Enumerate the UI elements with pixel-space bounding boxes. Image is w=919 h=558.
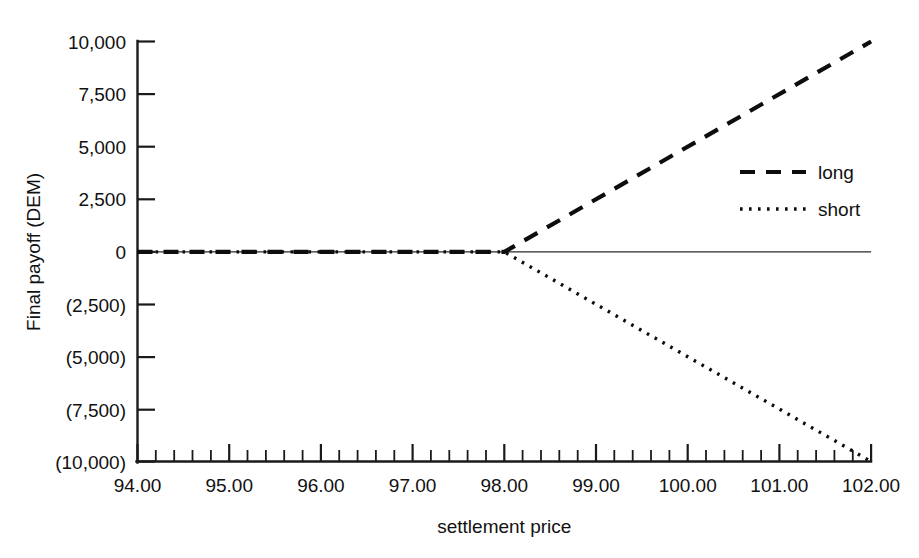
- y-tick-label: (2,500): [66, 295, 126, 316]
- y-tick-label: 0: [115, 242, 126, 263]
- chart-legend: long short: [740, 162, 861, 220]
- chart-canvas: 10,000 7,500 5,000 2,500 0 (2,500) (5,00…: [0, 0, 919, 558]
- x-tick-label: 94.00: [114, 475, 162, 496]
- legend-label-long: long: [818, 162, 854, 183]
- x-axis-tick-labels: 94.00 95.00 96.00 97.00 98.00 99.00 100.…: [114, 475, 900, 496]
- series-long-line: [138, 42, 872, 252]
- y-tick-label: (7,500): [66, 400, 126, 421]
- x-tick-label: 98.00: [481, 475, 529, 496]
- payoff-chart: 10,000 7,500 5,000 2,500 0 (2,500) (5,00…: [0, 0, 919, 558]
- y-tick-label: (10,000): [55, 452, 126, 473]
- x-tick-label: 100.00: [659, 475, 717, 496]
- x-axis-title: settlement price: [437, 516, 571, 537]
- x-tick-label: 97.00: [389, 475, 437, 496]
- x-tick-label: 95.00: [205, 475, 253, 496]
- legend-label-short: short: [818, 199, 861, 220]
- x-tick-label: 96.00: [297, 475, 345, 496]
- y-tick-label: 7,500: [78, 84, 126, 105]
- y-tick-label: 10,000: [68, 32, 126, 53]
- x-tick-label: 99.00: [572, 475, 620, 496]
- y-tick-label: (5,000): [66, 347, 126, 368]
- y-tick-label: 5,000: [78, 137, 126, 158]
- x-tick-label: 101.00: [750, 475, 808, 496]
- x-tick-label: 102.00: [842, 475, 900, 496]
- series-short-line: [138, 252, 872, 462]
- y-axis-tick-labels: 10,000 7,500 5,000 2,500 0 (2,500) (5,00…: [55, 32, 126, 473]
- y-tick-label: 2,500: [78, 189, 126, 210]
- y-axis-title: Final payoff (DEM): [23, 173, 44, 331]
